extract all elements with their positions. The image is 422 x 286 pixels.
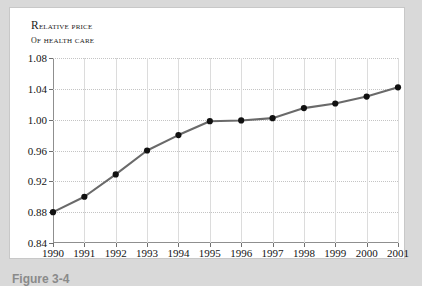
- x-axis-label: 1998: [293, 247, 315, 259]
- data-point-marker: [395, 84, 401, 90]
- data-point-marker: [301, 105, 307, 111]
- figure-panel: Relative price of health care 0.840.880.…: [9, 7, 405, 259]
- data-point-marker: [113, 171, 119, 177]
- x-axis-label: 1991: [73, 247, 95, 259]
- x-axis-label: 1993: [136, 247, 158, 259]
- chart-title-line-1: Relative price: [31, 19, 94, 33]
- x-axis-label: 1994: [167, 247, 189, 259]
- x-axis-label: 1996: [230, 247, 252, 259]
- data-point-marker: [332, 100, 338, 106]
- x-axis-label: 1997: [262, 247, 284, 259]
- y-axis-label: 0.96: [28, 145, 47, 157]
- plot-area: 0.840.880.920.961.001.041.08 19901991199…: [53, 58, 398, 243]
- data-point-marker: [364, 93, 370, 99]
- chart-title-line-2: of health care: [31, 33, 94, 47]
- figure-caption: Figure 3-4: [12, 272, 69, 286]
- series-health-care-price: [53, 58, 398, 243]
- chart-title: Relative price of health care: [31, 19, 94, 47]
- y-axis-label: 1.08: [28, 52, 47, 64]
- data-point-marker: [207, 118, 213, 124]
- x-axis-label: 1995: [199, 247, 221, 259]
- x-axis-label: 1999: [324, 247, 346, 259]
- data-point-marker: [50, 209, 56, 215]
- data-point-marker: [269, 115, 275, 121]
- data-point-marker: [175, 132, 181, 138]
- x-axis-label: 2000: [356, 247, 378, 259]
- data-point-marker: [81, 194, 87, 200]
- y-axis-label: 1.04: [28, 83, 47, 95]
- y-axis-label: 0.92: [28, 175, 47, 187]
- x-axis-label: 1990: [42, 247, 64, 259]
- y-axis-label: 1.00: [28, 114, 47, 126]
- data-point-marker: [144, 147, 150, 153]
- x-axis-label: 2001: [387, 247, 409, 259]
- y-axis-label: 0.88: [28, 206, 47, 218]
- series-line: [53, 87, 398, 212]
- x-axis-label: 1992: [105, 247, 127, 259]
- data-point-marker: [238, 117, 244, 123]
